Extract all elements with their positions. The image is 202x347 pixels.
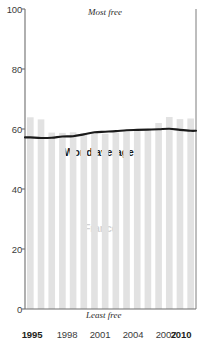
bar-1998 <box>59 133 66 309</box>
bar-1995 <box>27 117 34 309</box>
bar-2002 <box>102 134 109 309</box>
bar-1996 <box>38 119 45 309</box>
bar-1997 <box>48 133 55 309</box>
bar-2001 <box>91 132 98 309</box>
bar-1999 <box>70 132 77 309</box>
bar-2008 <box>166 117 173 309</box>
bar-2003 <box>113 133 120 309</box>
bars-group <box>27 117 194 309</box>
bar-2009 <box>177 119 184 309</box>
bar-2010 <box>187 119 194 310</box>
bar-2005 <box>134 131 141 309</box>
bar-2006 <box>145 130 152 309</box>
bar-2004 <box>123 131 130 309</box>
bar-2007 <box>155 123 162 309</box>
bar-2000 <box>80 133 87 309</box>
freedom-index-chart: 100 80 60 40 20 0 1995 1998 2001 2004 20… <box>0 0 202 347</box>
chart-canvas <box>0 0 202 347</box>
